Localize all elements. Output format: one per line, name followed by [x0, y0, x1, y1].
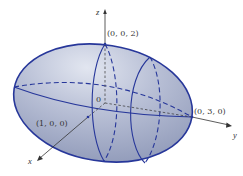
x-axis-label: x [27, 156, 32, 166]
point-x-intercept [87, 116, 90, 119]
y-axis [192, 117, 232, 128]
label-origin: 0 [96, 95, 101, 104]
z-axis-arrow-icon [103, 9, 107, 14]
ellipsoid-diagram: z y x (0, 0, 2) (0, 3, 0) (1, 0, 0) 0 [0, 0, 243, 176]
label-point-y: (0, 3, 0) [194, 107, 226, 116]
point-y-intercept [191, 116, 194, 119]
z-axis-label: z [95, 7, 100, 17]
ellipsoid-figure: z y x (0, 0, 2) (0, 3, 0) (1, 0, 0) 0 [0, 0, 243, 176]
y-axis-arrow-icon [226, 123, 232, 128]
label-point-z: (0, 0, 2) [107, 29, 139, 38]
label-point-x: (1, 0, 0) [36, 119, 68, 128]
point-z-intercept [104, 43, 107, 46]
ellipsoid-surface [5, 32, 201, 175]
y-axis-label: y [232, 130, 237, 140]
